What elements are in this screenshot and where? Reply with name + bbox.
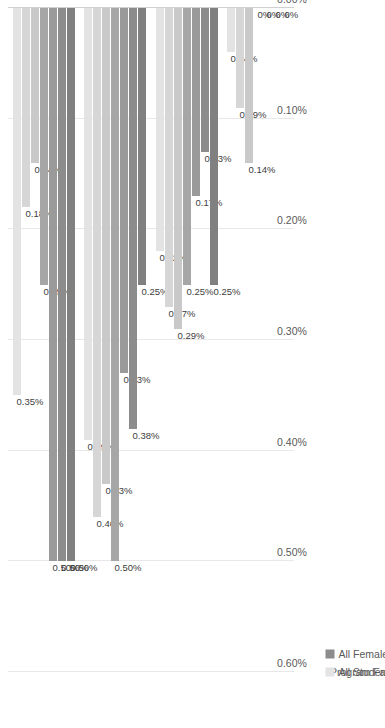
value-axis: 0.60%0.50%0.40%0.30%0.20%0.10%0.00% xyxy=(0,8,286,672)
axis-tick-label: 0.00% xyxy=(277,0,307,5)
legend-item[interactable]: All Students xyxy=(325,667,385,678)
legend-item[interactable]: All Females xyxy=(325,649,385,660)
chart-rotation-wrapper: 0.35%0.18%0.14%0.25%0.50%0.50%0.50%0.39%… xyxy=(0,0,385,728)
chart-legend: All StudentsAll FemalesAll MalesNon-Mino… xyxy=(330,8,382,672)
legend-label: All Females xyxy=(338,649,385,660)
legend-swatch xyxy=(325,650,334,659)
legend-label: All Students xyxy=(338,667,385,678)
category-axis: Program FactorsAdjustment FactorsTest Sc… xyxy=(296,8,318,672)
bar-chart-figure: 0.35%0.18%0.14%0.25%0.50%0.50%0.50%0.39%… xyxy=(0,0,385,728)
legend-swatch xyxy=(325,668,334,677)
